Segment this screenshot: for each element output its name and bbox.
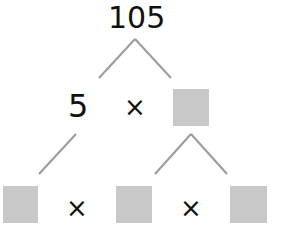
root-number: 105 xyxy=(108,3,165,33)
branch-box-right xyxy=(191,134,227,174)
branch-root-right xyxy=(135,39,171,78)
blank-box-level2-3[interactable] xyxy=(230,186,267,223)
blank-box-level2-2[interactable] xyxy=(116,186,152,223)
times-sign-level2-2: × xyxy=(180,195,202,221)
branch-root-left xyxy=(99,39,135,78)
branch-box-left xyxy=(155,134,191,174)
times-sign-level2-1: × xyxy=(66,195,88,221)
branch-five-down xyxy=(39,134,76,174)
factor-five: 5 xyxy=(68,90,88,122)
blank-box-level2-1[interactable] xyxy=(3,186,38,223)
blank-box-level1[interactable] xyxy=(173,89,209,126)
times-sign-level1: × xyxy=(124,94,146,120)
